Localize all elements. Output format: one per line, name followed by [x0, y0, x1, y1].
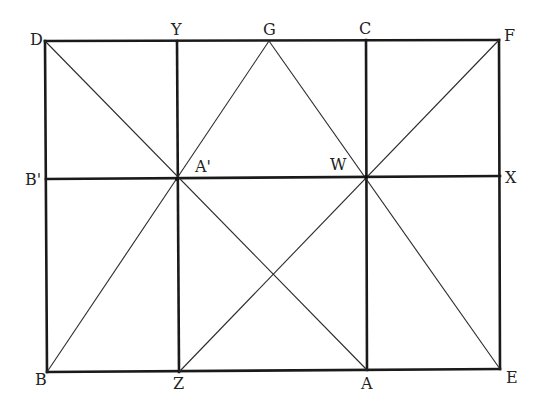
point-W-dot [364, 175, 368, 179]
segment-BG [47, 41, 269, 372]
geometry-diagram: D Y G C F B' A' W X B Z A E [0, 0, 544, 410]
label-G: G [263, 20, 276, 39]
label-B: B [35, 370, 47, 389]
interior-thick-lines [46, 40, 500, 372]
label-Y: Y [170, 20, 182, 39]
segment-BprimeX [46, 176, 500, 179]
label-A: A [360, 374, 373, 393]
label-Z: Z [173, 374, 184, 393]
outer-rectangle [45, 40, 500, 372]
point-labels: D Y G C F B' A' W X B Z A E [25, 19, 518, 393]
label-F: F [504, 26, 515, 45]
label-D: D [30, 30, 43, 49]
label-W: W [330, 155, 347, 174]
label-B-prime: B' [25, 170, 41, 189]
segment-YZ [177, 41, 179, 372]
label-A-prime: A' [194, 157, 211, 176]
segment-GE [269, 41, 500, 369]
segment-DF [45, 40, 499, 41]
segment-CA [366, 40, 367, 370]
label-C: C [359, 19, 371, 38]
point-Aprime-dot [175, 177, 179, 181]
label-E: E [506, 368, 518, 387]
segment-DA [45, 41, 367, 370]
label-X: X [505, 168, 517, 187]
segment-FE [499, 40, 500, 369]
diagonal-lines [45, 40, 500, 372]
segment-EB [47, 369, 500, 372]
segment-ZF [179, 40, 499, 372]
segment-BD [45, 41, 47, 372]
